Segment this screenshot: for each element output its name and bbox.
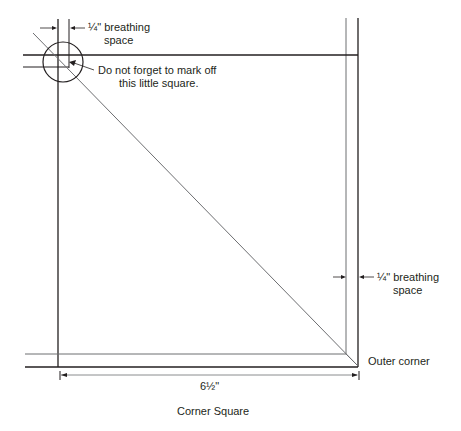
highlight-circle bbox=[43, 42, 83, 82]
top-breathing-label-space: space bbox=[104, 34, 133, 47]
top-breathing-arrow-left-head bbox=[52, 26, 57, 30]
top-breathing-arrow-right-head bbox=[70, 26, 75, 30]
note-label-second: this little square. bbox=[119, 77, 198, 90]
right-breathing-label-space: space bbox=[393, 284, 422, 297]
right-breathing-label: ¼" breathing bbox=[377, 271, 439, 284]
right-breathing-label-line1: ¼" breathing bbox=[377, 271, 439, 284]
outer-corner-label: Outer corner bbox=[368, 355, 430, 368]
top-breathing-label-line1: ¼" breathing bbox=[88, 21, 150, 34]
note-leader-line bbox=[74, 63, 94, 70]
caption: Corner Square bbox=[177, 405, 249, 418]
dimension-left-arrow-head bbox=[61, 373, 67, 377]
right-breathing-arrow-right-head bbox=[359, 275, 364, 279]
right-breathing-label-line2: space bbox=[393, 284, 422, 297]
note-label-line2: this little square. bbox=[119, 77, 198, 90]
top-breathing-label: ¼" breathing bbox=[88, 21, 150, 34]
note-label-line1: Do not forget to mark off bbox=[98, 64, 216, 77]
note-label: Do not forget to mark off bbox=[98, 64, 216, 77]
dimension-right-arrow-head bbox=[352, 373, 358, 377]
top-breathing-label-line2: space bbox=[104, 34, 133, 47]
inner-corner-diagonal-stub bbox=[346, 354, 358, 366]
dimension-label: 6½" bbox=[200, 380, 219, 393]
right-breathing-arrow-left-head bbox=[341, 275, 346, 279]
